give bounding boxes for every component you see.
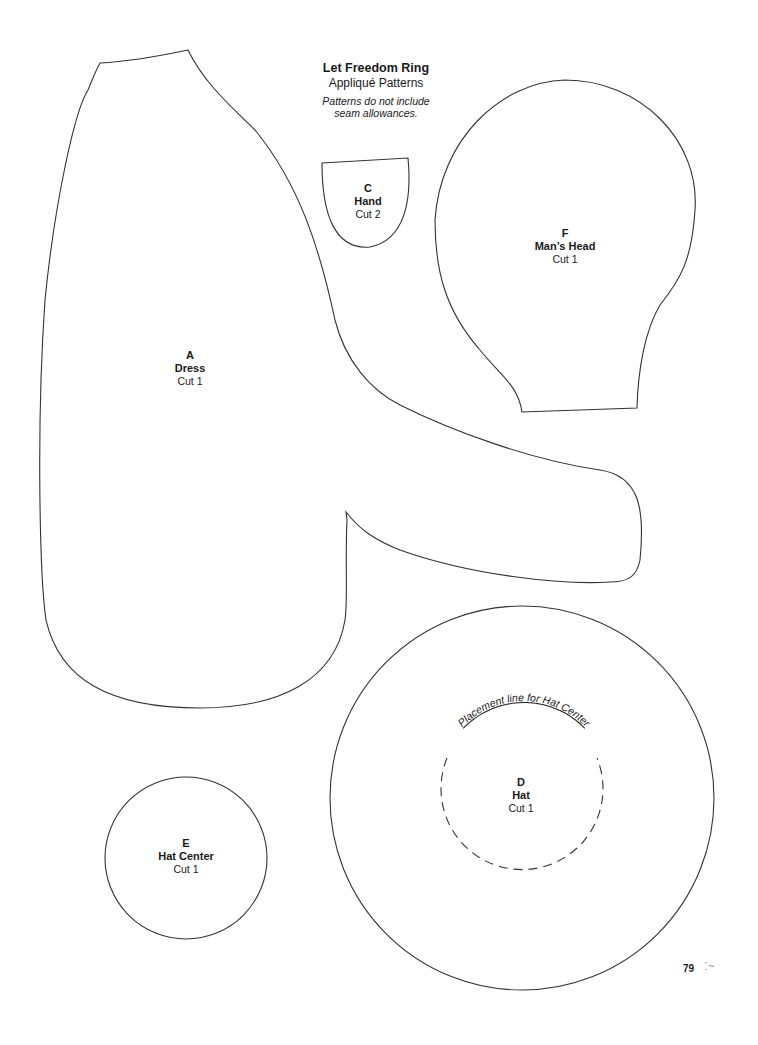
page-subtitle: Appliqué Patterns — [322, 76, 429, 91]
hat-name: Hat — [508, 789, 533, 802]
page-header: Let Freedom Ring Appliqué Patterns Patte… — [322, 61, 429, 119]
dress-cut: Cut 1 — [175, 375, 206, 388]
hat-label: D Hat Cut 1 — [508, 776, 533, 815]
hat-center-letter: E — [158, 837, 214, 850]
hand-label: C Hand Cut 2 — [354, 182, 382, 221]
hat-center-cut: Cut 1 — [158, 863, 214, 876]
hat-center-label: E Hat Center Cut 1 — [158, 837, 214, 876]
mans-head-name: Man’s Head — [535, 240, 596, 253]
dress-name: Dress — [175, 362, 206, 375]
hat-letter: D — [508, 776, 533, 789]
seam-note-line1: Patterns do not include — [322, 95, 429, 107]
mans-head-label: F Man’s Head Cut 1 — [535, 227, 596, 266]
hat-cut: Cut 1 — [508, 802, 533, 815]
mans-head-letter: F — [535, 227, 596, 240]
dress-label: A Dress Cut 1 — [175, 349, 206, 388]
hat-center-name: Hat Center — [158, 850, 214, 863]
hand-cut: Cut 2 — [354, 208, 382, 221]
hand-letter: C — [354, 182, 382, 195]
page-number: 79 — [683, 963, 694, 974]
seam-note-line2: seam allowances. — [322, 107, 429, 119]
dress-letter: A — [175, 349, 206, 362]
page-title: Let Freedom Ring — [322, 61, 429, 76]
mans-head-cut: Cut 1 — [535, 253, 596, 266]
dress-pattern-outline — [40, 50, 642, 708]
pattern-sheet: Placement line for Hat Center — [0, 0, 758, 1045]
hand-name: Hand — [354, 195, 382, 208]
page-ornament-icon: ⁚~ — [704, 960, 714, 973]
placement-line-label: Placement line for Hat Center — [455, 691, 593, 729]
